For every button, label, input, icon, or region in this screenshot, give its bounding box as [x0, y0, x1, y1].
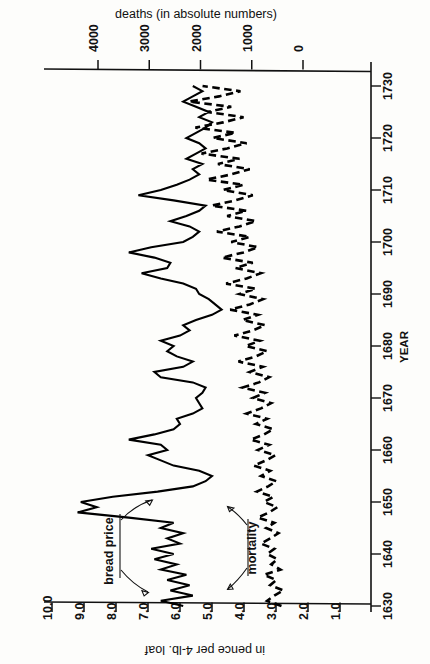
year-tick-label: 1660: [381, 436, 395, 464]
axes-group: [44, 62, 371, 612]
mortality-annotation: mortality: [228, 507, 260, 590]
price-tick-label: 10.0: [41, 596, 55, 620]
mortality-label: mortality: [245, 522, 259, 575]
bread-price-arrow-lower: [121, 570, 148, 592]
bread-price-arrowhead-upper: [146, 500, 153, 505]
price-tick-label: 8.0: [105, 603, 119, 620]
price-tick-label: 2.0: [297, 603, 311, 620]
year-ticks: 1730172017101700169016801670166016501640…: [371, 72, 395, 620]
year-tick-label: 1680: [381, 332, 395, 360]
price-tick-label: 5.0: [201, 603, 215, 620]
year-tick-label: 1690: [381, 280, 395, 308]
figure-page: Fig. 3 London Bread Prices and Smallpox …: [0, 0, 430, 664]
deaths-tick-label: 1000: [241, 24, 255, 52]
price-tick-label: 9.0: [73, 603, 87, 620]
price-tick-label: 7.0: [137, 603, 151, 620]
bread-price-label: bread price: [102, 517, 116, 584]
deaths-tick-label: 4000: [87, 24, 101, 52]
price-tick-label: 4.0: [233, 603, 247, 620]
year-tick-label: 1670: [381, 384, 395, 412]
year-tick-label: 1720: [381, 124, 395, 152]
deaths-tick-label: 2000: [190, 24, 204, 52]
price-axis-title: in pence per 4-lb. loaf: [144, 643, 265, 657]
year-tick-label: 1730: [381, 72, 395, 100]
deaths-axis-title: deaths (in absolute numbers): [115, 7, 277, 21]
year-tick-label: 1640: [381, 540, 395, 568]
bread-price-annotation: bread price: [102, 500, 153, 596]
chart-svg: 40003000200010000 10.09.08.07.06.05.04.0…: [0, 0, 430, 664]
deaths-ticks: 40003000200010000: [87, 24, 306, 69]
year-tick-label: 1630: [381, 592, 395, 620]
series-bread-price: [78, 86, 222, 606]
year-axis-title: YEAR: [398, 330, 410, 363]
deaths-axis-line: [44, 69, 371, 72]
deaths-tick-label: 0: [292, 45, 306, 52]
year-tick-label: 1700: [381, 228, 395, 256]
year-tick-label: 1650: [381, 488, 395, 516]
deaths-tick-label: 3000: [138, 24, 152, 52]
year-tick-label: 1710: [381, 176, 395, 204]
price-tick-label: 1.0: [329, 603, 343, 620]
price-ticks: 10.09.08.07.06.05.04.03.02.01.0: [41, 596, 343, 620]
mortality-arrow-upper: [228, 507, 247, 525]
